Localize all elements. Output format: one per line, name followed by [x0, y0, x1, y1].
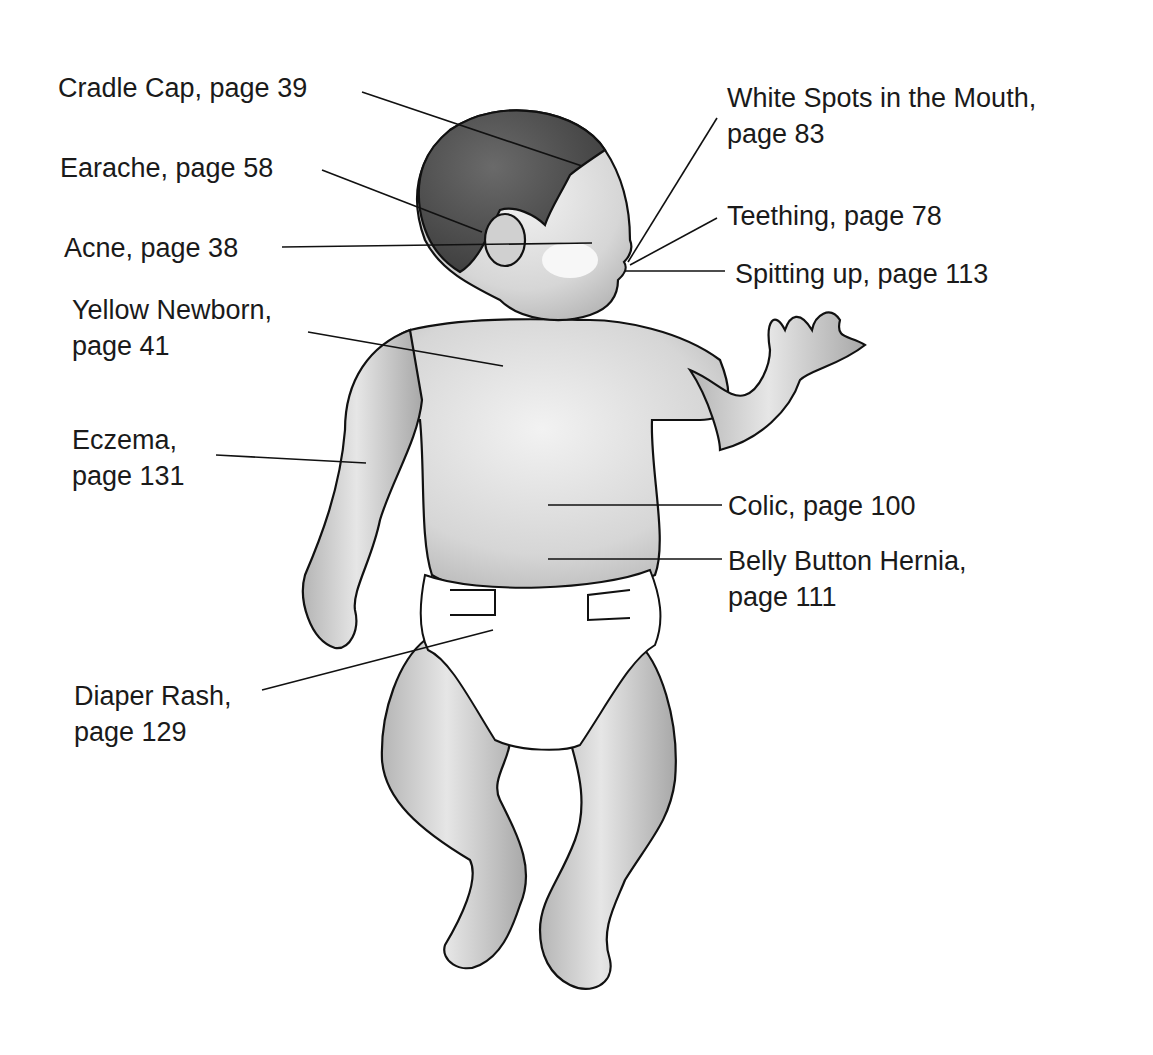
label-yellow-newborn: Yellow Newborn, page 41	[72, 292, 272, 364]
label-colic: Colic, page 100	[728, 488, 916, 524]
label-page: page 129	[74, 714, 232, 750]
label-text: Acne, page 38	[64, 230, 238, 266]
label-page: page 131	[72, 458, 185, 494]
label-text: Yellow Newborn,	[72, 292, 272, 328]
label-cradle-cap: Cradle Cap, page 39	[58, 70, 307, 106]
label-diaper-rash: Diaper Rash, page 129	[74, 678, 232, 750]
label-text: Teething, page 78	[727, 198, 942, 234]
label-text: Earache, page 58	[60, 150, 273, 186]
head	[417, 110, 631, 320]
label-page: page 41	[72, 328, 272, 364]
leader-white-spots	[628, 118, 717, 262]
label-text: Diaper Rash,	[74, 678, 232, 714]
left-arm	[303, 330, 422, 648]
leader-teething	[630, 218, 717, 265]
label-text: Eczema,	[72, 422, 185, 458]
label-page: page 111	[728, 579, 967, 615]
label-text: Spitting up, page 113	[735, 256, 988, 292]
label-white-spots: White Spots in the Mouth, page 83	[727, 80, 1036, 152]
label-teething: Teething, page 78	[727, 198, 942, 234]
label-belly-button-hernia: Belly Button Hernia, page 111	[728, 543, 967, 615]
label-eczema: Eczema, page 131	[72, 422, 185, 494]
label-text: Belly Button Hernia,	[728, 543, 967, 579]
label-earache: Earache, page 58	[60, 150, 273, 186]
label-acne: Acne, page 38	[64, 230, 238, 266]
label-text: Cradle Cap, page 39	[58, 70, 307, 106]
baby-body-map: Cradle Cap, page 39 Earache, page 58 Acn…	[0, 0, 1153, 1055]
label-page: page 83	[727, 116, 1036, 152]
label-text: White Spots in the Mouth,	[727, 80, 1036, 116]
label-spitting-up: Spitting up, page 113	[735, 256, 988, 292]
label-text: Colic, page 100	[728, 488, 916, 524]
